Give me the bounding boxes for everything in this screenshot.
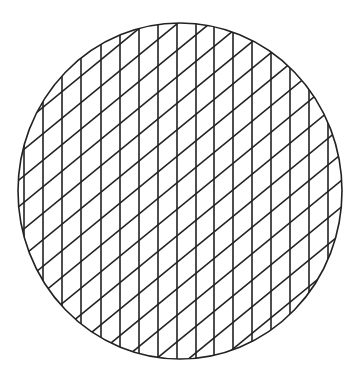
hatched-circle-diagram (0, 0, 361, 376)
background (0, 0, 361, 376)
